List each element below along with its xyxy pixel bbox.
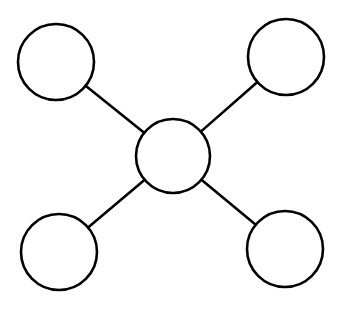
star-graph-diagram xyxy=(0,0,342,309)
node-top-right xyxy=(248,19,324,95)
node-bottom-right xyxy=(247,211,323,287)
edge-center-bottom-right xyxy=(201,180,255,225)
edge-center-bottom-left xyxy=(88,180,145,228)
nodes-group xyxy=(18,19,324,290)
node-center xyxy=(136,119,210,193)
node-bottom-left xyxy=(21,214,97,290)
node-top-left xyxy=(18,24,94,100)
edge-center-top-right xyxy=(201,82,258,132)
edge-center-top-left xyxy=(86,86,145,133)
